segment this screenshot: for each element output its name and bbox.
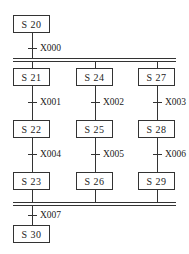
transition-x002-label: X002 [103, 97, 124, 107]
parallel-split-line-2 [13, 61, 176, 62]
parallel-merge-line-2 [13, 205, 176, 206]
connector-col3-c [157, 190, 158, 202]
transition-x000-tick [28, 48, 37, 49]
step-s22: S 22 [13, 120, 50, 138]
connector-col1-c [32, 190, 33, 202]
connector-col2-b [95, 138, 96, 173]
transition-x007-label: X007 [40, 210, 61, 220]
step-s29: S 29 [138, 172, 175, 190]
transition-x001-label: X001 [40, 97, 61, 107]
connector-col2-a [95, 86, 96, 121]
step-s23: S 23 [13, 172, 50, 190]
step-s21: S 21 [13, 68, 50, 86]
connector-col3-b [157, 138, 158, 173]
transition-x006-tick [153, 154, 162, 155]
transition-x005-tick [91, 154, 100, 155]
connector-col1-a [32, 86, 33, 121]
transition-x006-label: X006 [165, 149, 186, 159]
parallel-merge-line-1 [13, 202, 176, 203]
step-s28: S 28 [138, 120, 175, 138]
connector-s20 [32, 33, 33, 58]
transition-x004-tick [28, 154, 37, 155]
step-s26: S 26 [76, 172, 113, 190]
step-s27: S 27 [138, 68, 175, 86]
transition-x003-label: X003 [165, 97, 186, 107]
connector-col3-a [157, 86, 158, 121]
transition-x000-label: X000 [40, 43, 61, 53]
parallel-split-line-1 [13, 58, 176, 59]
step-s24: S 24 [76, 68, 113, 86]
step-s30: S 30 [13, 225, 50, 243]
step-s20: S 20 [13, 15, 50, 33]
transition-x001-tick [28, 102, 37, 103]
connector-col1-b [32, 138, 33, 173]
transition-x004-label: X004 [40, 149, 61, 159]
transition-x002-tick [91, 102, 100, 103]
connector-col2-c [95, 190, 96, 202]
transition-x007-tick [28, 215, 37, 216]
transition-x003-tick [153, 102, 162, 103]
step-s25: S 25 [76, 120, 113, 138]
transition-x005-label: X005 [103, 149, 124, 159]
